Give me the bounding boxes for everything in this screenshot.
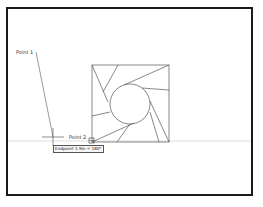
point2-label: Point 2 [69,134,86,140]
drawing-frame [7,8,252,195]
drawing-canvas[interactable] [0,0,263,207]
crosshair-cursor [42,128,64,146]
rubber-band-line [36,52,53,137]
snap-tooltip: Endpoint 1.9in < 180° [53,145,104,153]
point1-label: Point 1 [16,49,33,55]
aperture-shape[interactable] [92,65,169,142]
